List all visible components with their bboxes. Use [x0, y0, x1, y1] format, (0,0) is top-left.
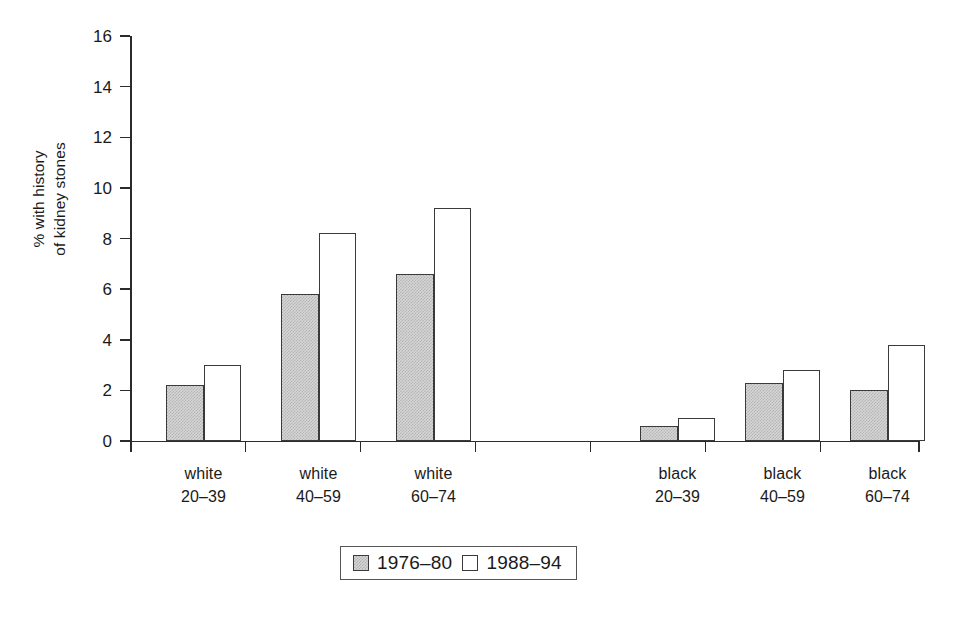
x-axis-label-age: 60–74: [818, 485, 958, 508]
y-axis-tick-label-16: 16: [60, 28, 112, 45]
legend-swatch-icon-1976-80: [353, 555, 369, 571]
x-axis-label-white-60-74: white60–74: [364, 462, 504, 508]
y-axis-tick-4: [120, 339, 130, 341]
y-axis-tick-label-6: 6: [60, 281, 112, 298]
y-axis-tick-label-12: 12: [60, 129, 112, 146]
x-axis-label-race: black: [818, 462, 958, 485]
bar-black-40-59-1976-80: [745, 383, 783, 441]
x-axis-tick-4: [590, 441, 592, 452]
legend-label-1976-80: 1976–80: [377, 553, 452, 572]
y-axis-tick-8: [120, 238, 130, 240]
y-axis-title-line1: % with history: [29, 89, 50, 309]
bar-white-40-59-1976-80: [281, 294, 319, 441]
x-axis-tick-2: [360, 441, 362, 452]
bar-black-60-74-1976-80: [850, 390, 888, 441]
chart-legend: 1976–80 1988–94: [340, 546, 577, 580]
y-axis-tick-16: [120, 35, 130, 37]
y-axis-title-line2: of kidney stones: [50, 89, 71, 309]
y-axis-tick-label-10: 10: [60, 179, 112, 196]
bar-white-20-39-1988-94: [204, 365, 242, 441]
legend-entry-0: 1976–80: [353, 553, 452, 572]
chart-figure: % with history of kidney stones 02468101…: [0, 0, 964, 623]
y-axis-tick-14: [120, 86, 130, 88]
x-axis-label-age: 60–74: [364, 485, 504, 508]
legend-swatch-icon-1988-94: [462, 555, 478, 571]
y-axis-tick-6: [120, 288, 130, 290]
x-axis-tick-3: [475, 441, 477, 452]
y-axis-line: [130, 36, 132, 442]
x-axis-label-black-60-74: black60–74: [818, 462, 958, 508]
legend-label-1988-94: 1988–94: [486, 553, 561, 572]
y-axis-tick-label-14: 14: [60, 78, 112, 95]
bar-white-60-74-1988-94: [434, 208, 472, 441]
bar-black-40-59-1988-94: [783, 370, 821, 441]
bar-black-60-74-1988-94: [888, 345, 926, 441]
bar-white-20-39-1976-80: [166, 385, 204, 441]
x-axis-tick-7: [918, 441, 920, 452]
x-axis-label-race: white: [364, 462, 504, 485]
x-axis-tick-6: [820, 441, 822, 452]
y-axis-tick-label-2: 2: [60, 382, 112, 399]
y-axis-tick-label-0: 0: [60, 433, 112, 450]
y-axis-tick-2: [120, 390, 130, 392]
x-axis-tick-5: [705, 441, 707, 452]
bar-white-40-59-1988-94: [319, 233, 357, 441]
y-axis-tick-0: [120, 440, 130, 442]
y-axis-title: % with history of kidney stones: [29, 89, 71, 309]
x-axis-tick-0: [130, 441, 132, 452]
bar-white-60-74-1976-80: [396, 274, 434, 441]
bar-black-20-39-1976-80: [640, 426, 678, 441]
bar-black-20-39-1988-94: [678, 418, 716, 441]
legend-entry-1: 1988–94: [462, 553, 561, 572]
y-axis-tick-10: [120, 187, 130, 189]
y-axis-tick-label-4: 4: [60, 331, 112, 348]
y-axis-tick-12: [120, 137, 130, 139]
y-axis-tick-label-8: 8: [60, 230, 112, 247]
x-axis-tick-1: [245, 441, 247, 452]
